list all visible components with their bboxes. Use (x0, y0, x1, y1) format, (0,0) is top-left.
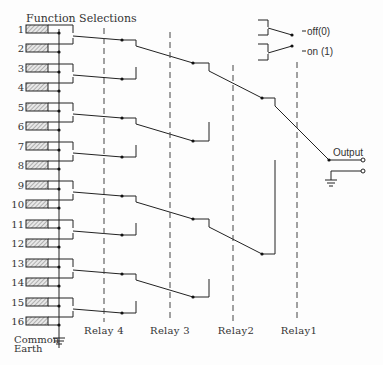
relay2-label: Relay2 (218, 325, 254, 336)
function-boxes (26, 25, 48, 325)
row-label: 8 (18, 160, 24, 171)
row-label: 13 (11, 258, 24, 269)
row-label: 12 (11, 238, 24, 249)
switch-on-icon (258, 44, 306, 60)
relay-tree-diagram: Function Selections 1 2 3 4 5 6 7 8 9 10… (0, 0, 383, 365)
function-box (26, 200, 48, 208)
legend: off(0) on (1) (258, 20, 333, 60)
relay1-label: Relay1 (281, 325, 317, 336)
row-label: 15 (11, 297, 24, 308)
row-label: 2 (18, 43, 24, 54)
relay4-label: Relay 4 (84, 325, 124, 336)
row-label: 6 (18, 121, 24, 132)
box-wiring (48, 25, 73, 346)
diagram-canvas: Function Selections 1 2 3 4 5 6 7 8 9 10… (0, 0, 383, 365)
relay2-stage (209, 71, 275, 256)
function-box (26, 298, 48, 306)
row-label: 16 (11, 316, 24, 327)
row-label: 10 (11, 199, 24, 210)
earth-label-line2: Earth (14, 343, 43, 354)
relay-dividers (104, 28, 297, 322)
ground-terminal (361, 169, 365, 173)
function-box (26, 220, 48, 228)
relay3-stage (136, 46, 209, 299)
row-label: 11 (11, 219, 24, 230)
function-box (26, 259, 48, 267)
row-label: 7 (18, 141, 24, 152)
function-box (26, 278, 48, 286)
switch-off-icon (258, 20, 306, 37)
function-box (26, 317, 48, 325)
relay3-label: Relay 3 (150, 325, 190, 336)
row-label: 5 (18, 102, 24, 113)
function-box (26, 239, 48, 247)
row-label: 4 (18, 82, 24, 93)
output-label: Output (333, 147, 363, 158)
row-label: 14 (11, 277, 24, 288)
relay1-stage (275, 106, 365, 180)
output-terminal (361, 158, 365, 162)
legend-off-label: off(0) (307, 26, 330, 37)
function-box (26, 103, 48, 111)
function-box (26, 142, 48, 150)
function-box (26, 83, 48, 91)
row-label: 1 (18, 24, 24, 35)
function-box (26, 44, 48, 52)
function-box (26, 64, 48, 72)
diagram-title: Function Selections (26, 12, 137, 25)
function-box (26, 122, 48, 130)
ground-icon (325, 180, 337, 186)
function-box (26, 25, 48, 33)
legend-on-label: on (1) (307, 46, 333, 57)
row-labels: 1 2 3 4 5 6 7 8 9 10 11 12 13 14 15 16 (11, 24, 24, 327)
function-box (26, 161, 48, 169)
row-label: 9 (18, 180, 24, 191)
row-label: 3 (18, 63, 24, 74)
function-box (26, 181, 48, 189)
